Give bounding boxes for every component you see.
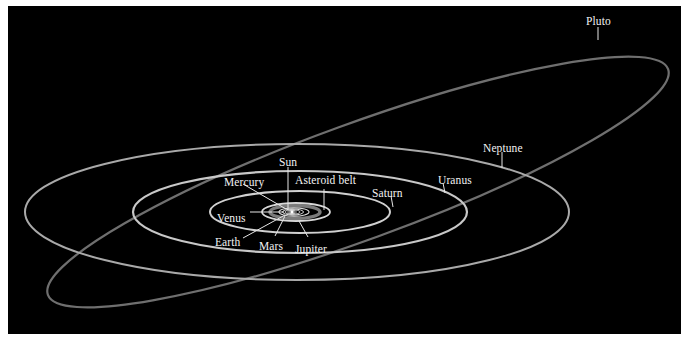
orbits-drawing	[8, 6, 681, 334]
label-mars: Mars	[259, 240, 283, 252]
label-pluto: Pluto	[586, 15, 611, 27]
label-venus: Venus	[217, 212, 246, 224]
label-neptune: Neptune	[483, 142, 523, 154]
label-mercury: Mercury	[224, 176, 264, 188]
label-asteroid-belt: Asteroid belt	[295, 174, 356, 186]
label-earth: Earth	[215, 236, 240, 248]
label-uranus: Uranus	[438, 174, 472, 186]
label-sun: Sun	[279, 156, 297, 168]
label-jupiter: Jupiter	[295, 243, 327, 255]
solar-system-diagram: Sun Mercury Venus Earth Mars Asteroid be…	[8, 6, 681, 334]
label-saturn: Saturn	[372, 187, 403, 199]
